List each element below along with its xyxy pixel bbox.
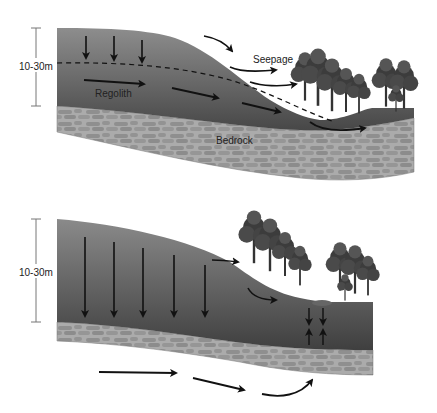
bottom-panel: 10-30m xyxy=(16,210,380,395)
top-panel: 10-30m Seepage Regolith Bedrock xyxy=(16,28,418,180)
regolith-label: Regolith xyxy=(95,88,132,99)
hillslope-diagram: 10-30m Seepage Regolith Bedrock xyxy=(0,0,437,413)
bedrock-label: Bedrock xyxy=(216,135,254,146)
seepage-label: Seepage xyxy=(253,54,293,65)
trees-group xyxy=(291,49,419,114)
pond xyxy=(312,300,332,306)
depth-label-bottom: 10-30m xyxy=(19,267,53,278)
depth-label: 10-30m xyxy=(19,61,53,72)
deep-flow-arrows xyxy=(99,372,312,396)
